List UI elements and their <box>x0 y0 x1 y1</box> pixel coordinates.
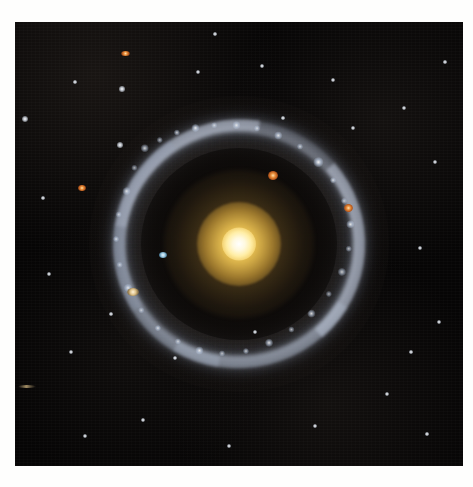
field-star <box>119 86 124 91</box>
field-star <box>41 196 45 200</box>
field-star <box>351 126 355 130</box>
field-star <box>213 32 216 35</box>
tan-galaxy-lower-left <box>127 288 139 296</box>
screenshot-root: Hoag's Object <box>0 0 473 487</box>
blue-knot-mid-left <box>159 252 167 258</box>
field-star <box>313 424 317 428</box>
field-star <box>47 272 51 276</box>
orange-compact-galaxy-left <box>78 185 86 191</box>
faint-streak-lower-left <box>18 385 36 388</box>
field-star <box>433 160 437 164</box>
field-star <box>425 432 428 435</box>
field-star <box>117 142 123 148</box>
ring-knot <box>313 157 324 168</box>
field-star <box>409 350 413 354</box>
astronomy-photograph <box>15 22 463 466</box>
field-star <box>141 418 145 422</box>
field-star <box>281 116 285 120</box>
red-knot-ring-right <box>344 204 353 212</box>
ring-knot <box>232 121 240 129</box>
orange-edge-on-galaxy-upper <box>121 51 130 56</box>
nucleus-bright-center <box>222 228 256 261</box>
field-star <box>253 330 257 334</box>
field-star <box>443 60 446 63</box>
ring-knot <box>211 122 217 128</box>
ring-knot <box>338 268 346 276</box>
orange-knot-inside-ring <box>268 171 278 180</box>
ring-knot <box>122 187 130 195</box>
field-star <box>83 434 87 438</box>
field-star <box>260 64 264 68</box>
field-star <box>73 80 76 83</box>
field-star <box>109 312 113 316</box>
